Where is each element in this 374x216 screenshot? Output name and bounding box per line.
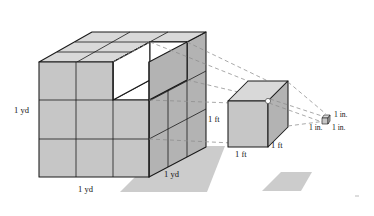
label-yard-depth: 1 yd	[164, 170, 179, 179]
geometry-figure: .ol{stroke:#1a1a1a;stroke-width:1.05;str…	[0, 0, 374, 216]
foot-cube-shadow	[262, 172, 312, 191]
foot-cube-front-face	[228, 101, 268, 147]
label-yard-height: 1 yd	[14, 106, 29, 115]
figure-canvas: .ol{stroke:#1a1a1a;stroke-width:1.05;str…	[0, 0, 374, 216]
label-foot-width: 1 ft	[235, 150, 247, 159]
label-foot-height: 1 ft	[208, 115, 220, 124]
cubic-inch-cube	[322, 115, 330, 124]
cubic-foot-cube	[228, 81, 288, 147]
label-yard-width: 1 yd	[78, 185, 93, 194]
label-foot-depth: 1 ft	[271, 141, 283, 150]
label-inch-right: 1 in.	[332, 124, 346, 132]
label-inch-top: 1 in.	[334, 111, 348, 119]
foot-cube-vertex-marker	[265, 98, 270, 103]
cubic-yard-block	[39, 32, 206, 177]
label-inch-left: 1 in.	[309, 124, 323, 132]
